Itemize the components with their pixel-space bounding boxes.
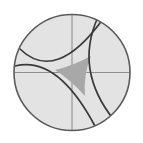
figure-container [0,0,143,143]
poincare-disk-figure [0,0,143,143]
